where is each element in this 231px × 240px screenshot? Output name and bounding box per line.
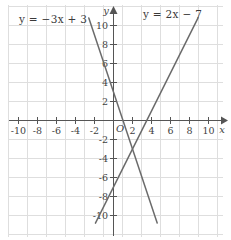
x-tick-label: 2 — [129, 125, 135, 136]
x-tick-label: 8 — [186, 125, 192, 136]
y-tick-label: -2 — [99, 134, 108, 145]
y-tick-label: 10 — [96, 20, 108, 31]
y-tick-label: -6 — [99, 172, 108, 183]
x-tick-labels: -10 -8 -6 -4 -2 2 4 6 8 10 — [11, 125, 215, 136]
y-tick-label: 2 — [102, 96, 108, 107]
x-tick-label: 4 — [148, 125, 154, 136]
x-tick-label: 10 — [202, 125, 214, 136]
coordinate-graph: -10 -8 -6 -4 -2 2 4 6 8 10 10 8 6 4 2 -2… — [0, 0, 231, 240]
origin-label: O — [116, 123, 124, 134]
plot-svg: -10 -8 -6 -4 -2 2 4 6 8 10 10 8 6 4 2 -2… — [0, 0, 231, 240]
x-axis-name: x — [219, 124, 225, 135]
equation-label-left: y = −3x + 3 — [19, 13, 87, 25]
y-tick-label: -4 — [99, 153, 108, 164]
x-tick-label: 6 — [167, 125, 173, 136]
y-tick-label: 4 — [102, 77, 108, 88]
x-tick-label: -4 — [71, 125, 80, 136]
x-tick-label: -8 — [33, 125, 42, 136]
y-axis-name: y — [102, 5, 109, 16]
y-tick-label: 8 — [102, 39, 108, 50]
x-tick-label: -2 — [90, 125, 99, 136]
equation-label-right: y = 2x − 7 — [143, 8, 202, 20]
x-tick-label: -6 — [52, 125, 61, 136]
x-tick-label: -10 — [11, 125, 26, 136]
